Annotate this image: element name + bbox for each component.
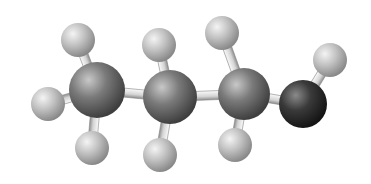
molecule-diagram	[0, 0, 371, 184]
carbon-atom-c3	[218, 68, 270, 120]
hydrogen-atom-h8	[313, 43, 347, 77]
hydrogen-atom-h4	[142, 28, 176, 62]
hydrogen-atom-h5	[143, 138, 177, 172]
atoms-layer	[31, 16, 347, 172]
carbon-atom-c2	[143, 70, 197, 124]
hydrogen-atom-h7	[218, 128, 252, 162]
hydrogen-atom-h6	[205, 16, 239, 50]
oxygen-atom-o1	[279, 80, 327, 128]
hydrogen-atom-h3	[75, 131, 109, 165]
hydrogen-atom-h2	[31, 87, 65, 121]
propanol-ball-and-stick-model	[0, 0, 371, 184]
hydrogen-atom-h1	[61, 23, 95, 57]
carbon-atom-c1	[69, 62, 125, 118]
